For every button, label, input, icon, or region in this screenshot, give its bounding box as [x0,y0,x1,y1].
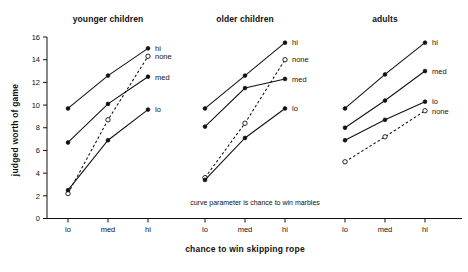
y-tick-label: 14 [32,55,40,64]
data-point-none [283,57,287,61]
y-axis-label: judged worth of game [10,84,20,177]
x-tick-label: med [101,225,116,234]
data-point-med [383,99,387,103]
data-point-lo [146,108,150,112]
series-label-none: none [292,55,309,64]
data-point-lo [343,138,347,142]
data-point-lo [423,100,427,104]
data-point-hi [146,46,150,50]
x-tick-label: hi [282,225,288,234]
x-tick-label: lo [202,225,208,234]
data-point-med [423,69,427,73]
data-point-lo [106,138,110,142]
panel-title-adults: adults [372,14,398,24]
chart-annotation: curve parameter is chance to win marbles [190,199,320,207]
data-point-none [383,135,387,139]
series-line-med [68,77,148,143]
series-line-lo [205,108,285,179]
data-point-lo [203,178,207,182]
y-tick-label: 0 [36,214,40,223]
data-point-med [203,125,207,129]
data-point-hi [383,73,387,77]
data-point-lo [383,118,387,122]
panel-title-younger-children: younger children [73,14,144,24]
panel-title-older-children: older children [216,14,274,24]
y-tick-label: 6 [36,146,40,155]
series-label-lo: lo [155,105,161,114]
series-label-lo: lo [292,104,298,113]
x-axis-label: chance to win skipping rope [185,244,305,254]
series-label-none: none [155,52,172,61]
data-point-none [243,121,247,125]
data-point-hi [203,107,207,111]
series-label-none: none [432,107,449,116]
data-point-hi [423,41,427,45]
y-tick-label: 10 [32,101,40,110]
data-point-med [106,102,110,106]
data-point-none [106,118,110,122]
series-label-med: med [292,75,307,84]
series-label-hi: hi [292,38,298,47]
series-line-hi [68,48,148,108]
chart-figure: 0246810121416younger childrenlomedhihino… [0,0,468,272]
data-point-none [146,54,150,58]
x-tick-label: hi [145,225,151,234]
y-tick-label: 12 [32,78,40,87]
data-point-hi [106,74,110,78]
x-tick-label: lo [342,225,348,234]
series-label-med: med [155,73,170,82]
series-label-hi: hi [432,38,438,47]
y-tick-label: 2 [36,192,40,201]
x-tick-label: med [378,225,393,234]
data-point-none [423,109,427,113]
data-point-hi [283,41,287,45]
x-tick-label: hi [422,225,428,234]
data-point-lo [66,188,70,192]
y-tick-label: 8 [36,123,40,132]
series-label-lo: lo [432,97,438,106]
series-label-med: med [432,67,447,76]
data-point-med [66,141,70,145]
data-point-med [146,75,150,79]
data-point-hi [66,107,70,111]
data-point-none [343,160,347,164]
data-point-med [243,86,247,90]
y-tick-label: 16 [32,33,40,42]
data-point-med [343,126,347,130]
data-point-lo [283,107,287,111]
x-tick-label: lo [65,225,71,234]
data-point-hi [343,107,347,111]
data-point-hi [243,74,247,78]
data-point-med [283,77,287,81]
data-point-lo [243,136,247,140]
y-tick-label: 4 [36,169,40,178]
x-tick-label: med [238,225,253,234]
